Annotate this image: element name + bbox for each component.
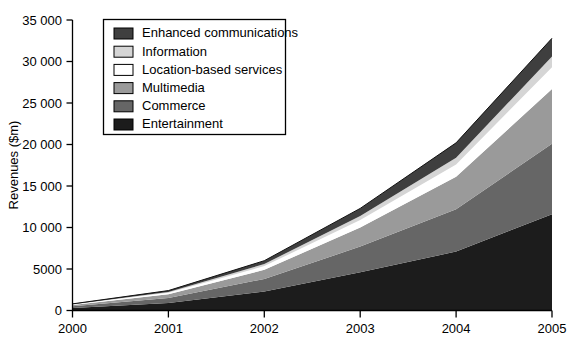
x-tick-label: 2002: [250, 321, 279, 336]
legend-swatch-multimedia: [114, 83, 133, 94]
y-tick-label: 25 000: [22, 96, 62, 111]
y-tick-label: 15 000: [22, 179, 62, 194]
y-tick-label: 0: [55, 303, 62, 318]
x-tick-label: 2000: [58, 321, 87, 336]
legend-label-location-based-services: Location-based services: [142, 62, 283, 77]
x-tick-label: 2001: [154, 321, 183, 336]
chart-canvas: 0500010 00015 00020 00025 00030 00035 00…: [0, 0, 574, 342]
y-tick-label: 5000: [33, 262, 62, 277]
chart-legend: Enhanced communicationsInformationLocati…: [104, 20, 299, 135]
legend-swatch-location-based-services: [114, 64, 133, 75]
y-tick-label: 35 000: [22, 13, 62, 28]
y-tick-label: 20 000: [22, 137, 62, 152]
legend-label-entertainment: Entertainment: [142, 116, 223, 131]
x-tick-label: 2004: [442, 321, 471, 336]
y-tick-label: 10 000: [22, 220, 62, 235]
legend-label-information: Information: [142, 44, 207, 59]
legend-label-multimedia: Multimedia: [142, 80, 206, 95]
legend-swatch-entertainment: [114, 119, 133, 130]
y-tick-label: 30 000: [22, 54, 62, 69]
y-axis-title: Revenues ($m): [6, 121, 21, 210]
legend-label-enhanced-communications: Enhanced communications: [142, 25, 299, 40]
x-tick-label: 2005: [538, 321, 567, 336]
legend-swatch-information: [114, 46, 133, 57]
stacked-area-chart: 0500010 00015 00020 00025 00030 00035 00…: [0, 0, 574, 342]
legend-swatch-enhanced-communications: [114, 28, 133, 39]
x-tick-label: 2003: [346, 321, 375, 336]
legend-label-commerce: Commerce: [142, 98, 206, 113]
legend-swatch-commerce: [114, 101, 133, 112]
